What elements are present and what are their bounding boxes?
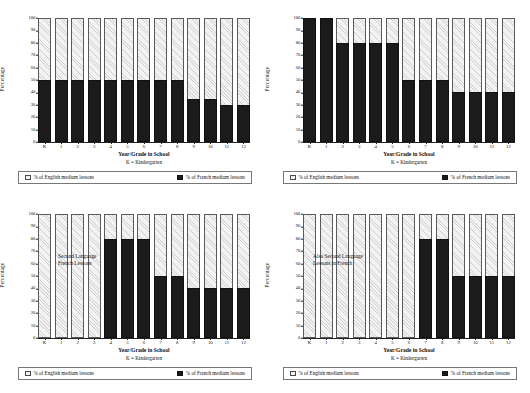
bar-column	[485, 214, 498, 338]
bar-column	[237, 18, 250, 142]
y-tick-label: 20	[296, 115, 303, 120]
y-tick-label: 50	[31, 274, 38, 279]
bar-column	[320, 214, 333, 338]
bar-column	[502, 18, 515, 142]
y-tick-label: 70	[296, 249, 303, 254]
bar-column	[386, 214, 399, 338]
bar-segment-french	[187, 99, 200, 142]
bar-column	[137, 18, 150, 142]
bar-segment-french	[419, 239, 432, 338]
bar-column	[88, 214, 101, 338]
y-axis-label: Percentage	[264, 0, 270, 44]
bar-segment-french	[137, 80, 150, 142]
bar-segment-english	[320, 214, 333, 338]
legend-label-french: % of French medium lessons	[186, 174, 245, 180]
y-tick-label: 80	[31, 41, 38, 46]
chart-panel-top-right: Percentage0102030405060708090100K1234567…	[265, 0, 530, 196]
bar-group	[303, 18, 515, 142]
bar-column	[38, 18, 51, 142]
bar-segment-french	[502, 92, 515, 142]
bar-segment-english	[38, 214, 51, 338]
bar-column	[121, 214, 134, 338]
legend-item-english: % of English medium lessons	[25, 370, 94, 376]
y-tick-label: 20	[31, 115, 38, 120]
bar-segment-french	[171, 276, 184, 338]
bar-column	[104, 18, 117, 142]
bar-segment-french	[452, 92, 465, 142]
bar-column	[419, 214, 432, 338]
legend-swatch-french-icon	[442, 175, 448, 181]
y-tick-label: 70	[31, 249, 38, 254]
legend-item-english: % of English medium lessons	[290, 370, 359, 376]
legend-item-english: % of English medium lessons	[25, 174, 94, 180]
bar-segment-french	[436, 239, 449, 338]
bar-segment-french	[419, 80, 432, 142]
legend-label-english: % of English medium lessons	[299, 174, 360, 180]
bar-column	[502, 214, 515, 338]
y-tick-label: 20	[31, 311, 38, 316]
bar-segment-french	[220, 288, 233, 338]
bar-column	[303, 214, 316, 338]
bar-segment-french	[386, 43, 399, 142]
bar-column	[485, 18, 498, 142]
bar-segment-english	[55, 214, 68, 338]
bar-column	[121, 18, 134, 142]
y-tick-label: 100	[294, 212, 303, 217]
bar-segment-english	[88, 214, 101, 338]
legend-item-french: % of French medium lessons	[442, 370, 510, 376]
bar-segment-french	[204, 288, 217, 338]
y-axis-label-text: Percentage	[264, 44, 270, 114]
y-axis-label: Percentage	[0, 170, 5, 240]
bar-group	[38, 18, 250, 142]
legend-label-english: % of English medium lessons	[299, 370, 360, 376]
chart-panel-bottom-right: Percentage0102030405060708090100Also Sec…	[265, 196, 530, 393]
bar-column	[452, 214, 465, 338]
bar-column	[88, 18, 101, 142]
chart-annotation: Second Language French Lessons	[58, 253, 96, 268]
bar-segment-french	[55, 80, 68, 142]
bar-column	[104, 214, 117, 338]
chart-legend: % of English medium lessons% of French m…	[18, 367, 252, 380]
legend-swatch-english-icon	[25, 371, 31, 377]
bar-column	[220, 18, 233, 142]
legend-label-french: % of French medium lessons	[451, 174, 510, 180]
bar-segment-english	[369, 214, 382, 338]
bar-segment-french	[187, 288, 200, 338]
legend-swatch-french-icon	[177, 371, 183, 377]
y-axis-label: Percentage	[264, 170, 270, 240]
bar-column	[137, 214, 150, 338]
bar-column	[303, 18, 316, 142]
bar-column	[452, 18, 465, 142]
y-tick-label: 50	[296, 274, 303, 279]
legend-swatch-english-icon	[25, 175, 31, 181]
chart-legend: % of English medium lessons% of French m…	[283, 171, 517, 184]
bar-column	[353, 18, 366, 142]
bar-segment-french	[220, 105, 233, 142]
legend-swatch-english-icon	[290, 175, 296, 181]
bar-segment-french	[320, 18, 333, 142]
bar-segment-french	[204, 99, 217, 142]
legend-item-french: % of French medium lessons	[177, 370, 245, 376]
y-axis-label-text: Percentage	[264, 240, 270, 310]
bar-column	[386, 18, 399, 142]
y-axis-label: Percentage	[0, 0, 5, 44]
bar-column	[469, 214, 482, 338]
bar-column	[171, 214, 184, 338]
y-tick-label: 40	[31, 286, 38, 291]
y-tick-label: 60	[296, 261, 303, 266]
y-axis-label-text: Percentage	[0, 240, 5, 310]
bar-column	[436, 214, 449, 338]
x-axis-title: Year/Grade in School	[38, 347, 250, 353]
bar-segment-french	[104, 80, 117, 142]
bar-segment-french	[485, 92, 498, 142]
bar-column	[402, 214, 415, 338]
y-tick-label: 10	[31, 323, 38, 328]
bar-column	[38, 214, 51, 338]
x-axis-title: Year/Grade in School	[38, 151, 250, 157]
bar-segment-english	[353, 214, 366, 338]
legend-item-english: % of English medium lessons	[290, 174, 359, 180]
y-tick-label: 80	[31, 237, 38, 242]
bar-column	[154, 18, 167, 142]
bar-column	[369, 214, 382, 338]
bar-segment-french	[353, 43, 366, 142]
